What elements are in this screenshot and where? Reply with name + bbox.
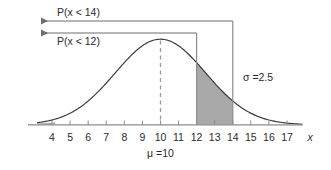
shaded-region-12-to-14 [197,63,233,125]
tick-label: 10 [155,131,167,143]
x-axis-tick-labels: 4 5 6 7 8 9 10 11 12 13 14 15 16 17 [49,131,293,143]
tick-label: 9 [139,131,145,143]
x-axis-ticks [52,121,287,125]
tick-label: 4 [49,131,55,143]
tick-label: 6 [85,131,91,143]
tick-label: 17 [281,131,293,143]
tick-label: 15 [245,131,257,143]
prob-lower-label: P(x < 12) [57,35,100,47]
prob-upper-label: P(x < 14) [57,6,100,18]
tick-label: 12 [191,131,203,143]
normal-distribution-figure: P(x < 14) P(x < 12) σ =2.5 μ =10 x 4 5 6… [0,0,331,170]
tick-label: 7 [103,131,109,143]
mean-label: μ =10 [147,147,174,159]
tick-label: 11 [173,131,184,143]
sigma-label: σ =2.5 [243,71,273,83]
tick-label: 16 [263,131,275,143]
tick-label: 5 [67,131,73,143]
tick-label: 14 [227,131,239,143]
tick-label: 8 [121,131,127,143]
x-axis-label: x [306,131,313,143]
figure-canvas: P(x < 14) P(x < 12) σ =2.5 μ =10 x 4 5 6… [0,0,331,170]
tick-label: 13 [209,131,221,143]
